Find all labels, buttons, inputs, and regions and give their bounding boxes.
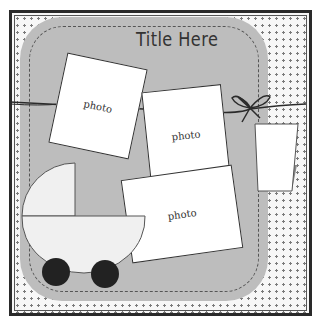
baby-carriage-icon: [0, 0, 323, 326]
